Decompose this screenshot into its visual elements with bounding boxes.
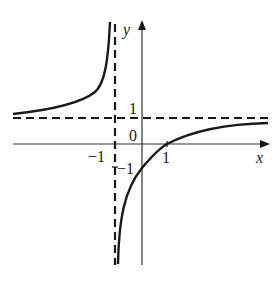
x-tick-label-one: 1 xyxy=(162,149,170,166)
y-tick-label-neg-one: −1 xyxy=(117,160,134,177)
x-axis-label: x xyxy=(255,149,263,166)
function-graph: y x 0 1 −1 1 −1 xyxy=(0,0,279,281)
x-tick-label-neg-one: −1 xyxy=(88,148,105,165)
curve-left-branch xyxy=(13,22,110,114)
y-tick-label-one: 1 xyxy=(129,100,137,117)
origin-label: 0 xyxy=(129,127,137,144)
y-axis-label: y xyxy=(121,21,131,39)
